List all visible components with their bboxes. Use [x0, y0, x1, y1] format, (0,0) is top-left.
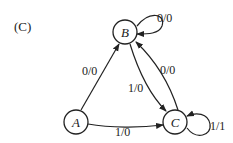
- state-label-b: B: [121, 25, 129, 40]
- edge-label-c-to-b: 0/0: [160, 63, 175, 77]
- edge-label-b-self: 0/0: [157, 11, 172, 25]
- state-label-c: C: [171, 115, 180, 130]
- state-label-a: A: [71, 115, 80, 130]
- panel-label: (C): [14, 19, 31, 34]
- edge-label-b-to-c: 1/0: [128, 81, 143, 95]
- edge-label-a-to-b: 0/0: [82, 64, 97, 78]
- edge-label-c-self: 1/1: [210, 119, 225, 133]
- state-node-c: C: [163, 110, 187, 134]
- edge-c-self-loop: [187, 114, 210, 135]
- state-node-a: A: [64, 110, 88, 134]
- edge-label-a-to-c: 1/0: [115, 125, 130, 139]
- state-node-b: B: [113, 20, 137, 44]
- state-diagram: (C) 0/0 0/0 1/0 0/0 1/0 1/1 B A C: [0, 0, 233, 143]
